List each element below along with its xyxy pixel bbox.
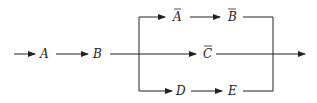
node-d-label: D: [175, 84, 186, 98]
node-b-label: B: [92, 47, 102, 61]
node-a-bar-label: A: [172, 10, 182, 24]
block-diagram: A B A B C D E: [0, 0, 317, 103]
node-c-bar-label: C: [203, 47, 212, 61]
node-b-bar-label: B: [227, 10, 237, 24]
node-a-label: A: [39, 47, 49, 61]
node-e-label: E: [227, 84, 237, 98]
